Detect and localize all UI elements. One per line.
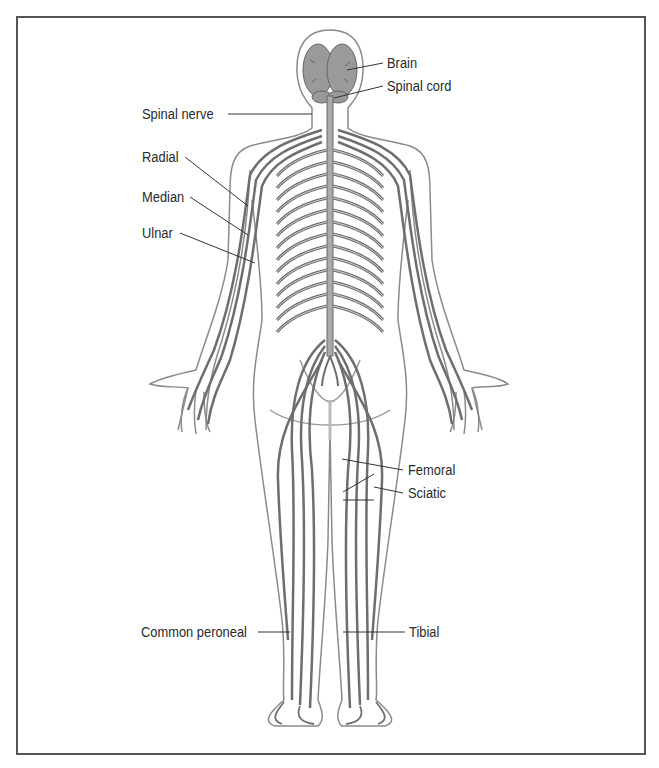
label-sciatic: Sciatic (408, 485, 446, 501)
label-spinal-nerve: Spinal nerve (142, 106, 214, 122)
label-femoral: Femoral (408, 462, 455, 478)
leg-nerves (275, 340, 385, 724)
nervous-system-illustration (0, 0, 659, 768)
label-median: Median (142, 189, 184, 205)
label-radial: Radial (142, 149, 179, 165)
label-common-peroneal: Common peroneal (141, 624, 247, 640)
spinal-cord (322, 96, 338, 386)
label-ulnar: Ulnar (142, 225, 173, 241)
label-spinal-cord: Spinal cord (387, 78, 451, 94)
label-brain: Brain (387, 55, 417, 71)
label-tibial: Tibial (409, 624, 439, 640)
